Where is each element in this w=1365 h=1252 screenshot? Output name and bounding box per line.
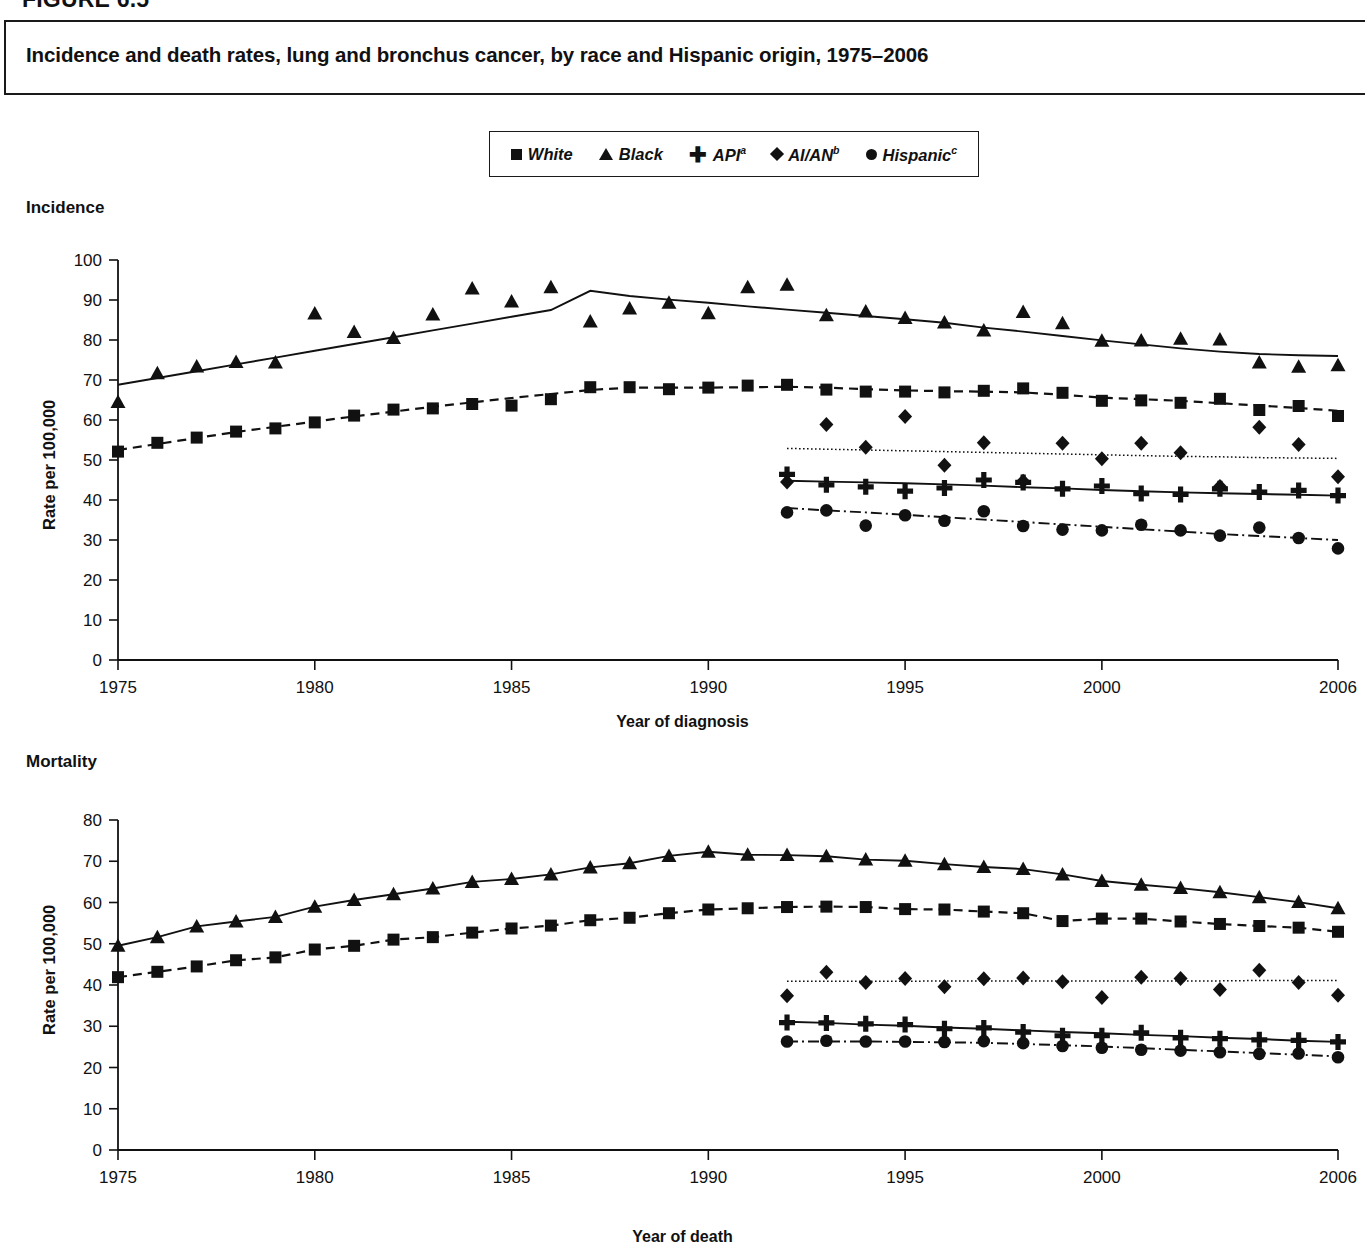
page-title: Incidence and death rates, lung and bron… [26, 43, 928, 67]
legend-item-black: Black [599, 145, 663, 164]
svg-text:1995: 1995 [886, 1168, 924, 1187]
legend-item-aian: AI/ANb [772, 144, 839, 165]
legend-item-hispanic: Hispanicc [866, 144, 958, 165]
panel-caption-mortality: Mortality [26, 752, 97, 772]
legend-footnote-c: c [951, 144, 957, 156]
figure-number: FIGURE 6.5 [22, 0, 149, 13]
series-hispanic [781, 504, 1345, 555]
svg-text:10: 10 [83, 611, 102, 630]
svg-text:10: 10 [83, 1100, 102, 1119]
legend-label-hispanic: Hispanicc [883, 144, 958, 165]
series-black [111, 844, 1346, 952]
x-axis-title-incidence: Year of diagnosis [0, 713, 1365, 731]
svg-text:0: 0 [93, 1141, 102, 1160]
svg-text:2006: 2006 [1319, 1168, 1357, 1187]
svg-text:30: 30 [83, 531, 102, 550]
diamond-marker-icon [770, 147, 784, 161]
svg-text:20: 20 [83, 1059, 102, 1078]
svg-text:40: 40 [83, 491, 102, 510]
svg-text:50: 50 [83, 935, 102, 954]
svg-text:1985: 1985 [493, 1168, 531, 1187]
series-white [112, 379, 1344, 458]
svg-text:2006: 2006 [1319, 678, 1357, 697]
svg-text:1990: 1990 [689, 678, 727, 697]
svg-text:70: 70 [83, 852, 102, 871]
triangle-marker-icon [599, 148, 613, 160]
svg-text:80: 80 [83, 811, 102, 830]
svg-text:2000: 2000 [1083, 1168, 1121, 1187]
x-axis-title-mortality: Year of death [0, 1228, 1365, 1246]
series-ai-an [780, 963, 1345, 1005]
svg-text:1990: 1990 [689, 1168, 727, 1187]
legend-label-aian: AI/ANb [788, 144, 839, 165]
panel-caption-incidence: Incidence [26, 198, 104, 218]
series-api [779, 466, 1346, 503]
svg-text:20: 20 [83, 571, 102, 590]
square-marker-icon [511, 149, 522, 160]
svg-text:30: 30 [83, 1017, 102, 1036]
svg-text:0: 0 [93, 651, 102, 670]
svg-text:60: 60 [83, 894, 102, 913]
plus-marker-icon: ✚ [689, 149, 707, 160]
legend-item-white: White [511, 145, 573, 164]
legend-label-api: APIa [713, 144, 746, 165]
svg-text:70: 70 [83, 371, 102, 390]
svg-text:1980: 1980 [296, 1168, 334, 1187]
mortality-plot: 0102030405060708019751980198519901995200… [0, 770, 1365, 1190]
svg-text:80: 80 [83, 331, 102, 350]
series-white [112, 901, 1344, 984]
legend-footnote-b: b [833, 144, 839, 156]
svg-text:2000: 2000 [1083, 678, 1121, 697]
chart-legend: White Black ✚ APIa AI/ANb Hispanicc [489, 131, 979, 177]
series-black [111, 277, 1346, 408]
svg-text:40: 40 [83, 976, 102, 995]
svg-text:1975: 1975 [99, 1168, 137, 1187]
incidence-plot: 0102030405060708090100197519801985199019… [0, 230, 1365, 710]
svg-text:1995: 1995 [886, 678, 924, 697]
svg-text:60: 60 [83, 411, 102, 430]
circle-marker-icon [866, 149, 877, 160]
legend-label-black: Black [619, 145, 663, 164]
legend-label-white: White [528, 145, 573, 164]
svg-text:50: 50 [83, 451, 102, 470]
legend-item-api: ✚ APIa [689, 144, 746, 165]
svg-text:1980: 1980 [296, 678, 334, 697]
svg-text:1985: 1985 [493, 678, 531, 697]
figure-page: FIGURE 6.5 Incidence and death rates, lu… [0, 0, 1365, 1252]
legend-footnote-a: a [740, 144, 746, 156]
svg-text:1975: 1975 [99, 678, 137, 697]
svg-text:90: 90 [83, 291, 102, 310]
svg-text:100: 100 [74, 251, 102, 270]
